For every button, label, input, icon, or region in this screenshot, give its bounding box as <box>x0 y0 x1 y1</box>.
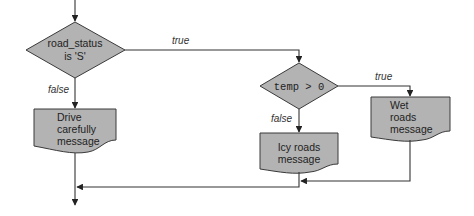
output-icy-roads: Icy roads message <box>260 133 338 173</box>
wet-line2: roads <box>390 111 416 123</box>
decision-road-status-line1: road_status <box>48 37 103 49</box>
edge-icy-merge <box>77 172 299 187</box>
icy-line1: Icy roads <box>278 141 321 153</box>
output-drive-carefully: Drive carefully message <box>34 109 116 153</box>
decision-road-status: road_status is 'S' <box>26 22 125 78</box>
decision-temp: temp > 0 <box>260 63 338 109</box>
edge-label-d2-true: true <box>375 71 393 82</box>
edge-label-d1-false: false <box>48 84 70 95</box>
wet-line1: Wet <box>390 99 409 111</box>
decision-road-status-line2: is 'S' <box>64 50 86 62</box>
edge-label-d2-false: false <box>271 113 293 124</box>
drive-line2: carefully <box>57 123 97 135</box>
output-wet-roads: Wet roads message <box>371 97 450 141</box>
decision-temp-label: temp > 0 <box>274 81 324 93</box>
edge-d2-true <box>338 86 410 96</box>
icy-line2: message <box>278 153 321 165</box>
flowchart: road_status is 'S' true false Drive care… <box>0 0 474 216</box>
edge-label-d1-true: true <box>172 35 190 46</box>
edge-d1-true <box>125 50 299 62</box>
wet-line3: message <box>390 123 433 135</box>
drive-line3: message <box>57 135 100 147</box>
drive-line1: Drive <box>57 111 82 123</box>
